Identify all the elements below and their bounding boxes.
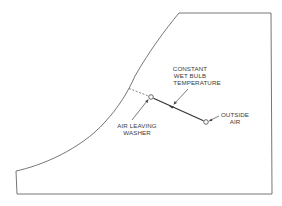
outside-air-label: OUTSIDE AIR	[221, 111, 249, 125]
air-leaving-washer-point	[149, 95, 154, 100]
label-line: TEMPERATURE	[173, 79, 220, 86]
dashed-extension-line	[129, 89, 149, 97]
label-line: AIR	[221, 118, 249, 125]
label-line: OUTSIDE	[221, 111, 249, 118]
outside-air-leader-arrow-icon	[209, 118, 213, 121]
washer-leader	[132, 101, 147, 120]
constant-wet-bulb-label: CONSTANT WET BULB TEMPERATURE	[159, 65, 220, 86]
saturation-curve	[16, 13, 179, 171]
wet-bulb-leader	[175, 89, 188, 103]
chart-frame	[16, 13, 272, 194]
label-line: CONSTANT	[159, 65, 220, 72]
outside-air-point	[204, 120, 209, 125]
air-leaving-washer-label: AIR LEAVING WASHER	[117, 122, 157, 136]
label-line: WASHER	[117, 129, 157, 136]
label-line: AIR LEAVING	[117, 122, 157, 129]
label-line: WET BULB	[159, 72, 220, 79]
psychrometric-diagram	[0, 0, 282, 206]
constant-wet-bulb-line	[154, 98, 204, 121]
